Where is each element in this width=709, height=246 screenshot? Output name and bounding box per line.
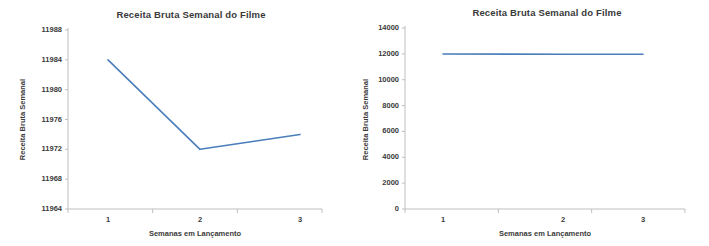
right-chart-panel: Receita Bruta Semanal do Filme Receita B… xyxy=(355,0,709,246)
two-chart-figure: Receita Bruta Semanal do Filme Receita B… xyxy=(0,0,709,246)
left-chart-plot-area xyxy=(0,0,340,246)
left-chart-panel: Receita Bruta Semanal do Filme Receita B… xyxy=(0,0,340,246)
right-chart-plot-area xyxy=(355,0,709,246)
